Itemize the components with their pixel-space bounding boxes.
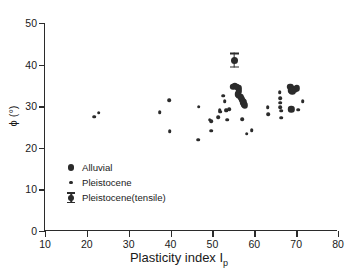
data-point-pleistocene xyxy=(280,116,284,120)
data-point-pleistocene xyxy=(250,129,254,133)
x-axis-tick xyxy=(338,231,339,237)
x-axis-tick xyxy=(254,231,255,237)
x-axis-tick xyxy=(171,231,172,237)
x-axis-title-subscript: p xyxy=(223,258,228,268)
x-axis-tick-label: 80 xyxy=(332,238,344,250)
x-axis-tick-label: 20 xyxy=(81,238,93,250)
data-point-alluvial xyxy=(289,88,295,94)
legend-label-alluvial: Alluvial xyxy=(82,162,112,173)
data-point-pleistocene xyxy=(267,112,271,116)
data-point-pleistocene xyxy=(223,99,227,103)
y-axis-title: ϕ (°) xyxy=(7,106,19,127)
data-point-pleistocene xyxy=(278,96,282,100)
data-point-pleistocene xyxy=(278,90,282,94)
data-point-pleistocene xyxy=(158,110,162,114)
x-axis-tick xyxy=(129,231,130,237)
data-point-pleistocene xyxy=(241,117,245,121)
x-axis-title-text: Plasticity index I xyxy=(130,250,223,265)
x-axis-tick xyxy=(212,231,213,237)
y-axis-tick-label: 10 xyxy=(25,183,37,195)
data-point-pleistocene xyxy=(301,99,305,103)
small-dot-icon xyxy=(63,175,79,190)
legend: Alluvial Pleistocene Pleistocene(tensile… xyxy=(63,160,166,205)
data-point-pleistocene xyxy=(197,105,201,109)
data-point-pleistocene-tensile xyxy=(228,53,241,68)
data-point-alluvial xyxy=(242,102,248,108)
x-axis-tick-label: 50 xyxy=(207,238,219,250)
data-point-pleistocene xyxy=(279,109,283,113)
data-point-pleistocene xyxy=(297,108,301,112)
data-point-pleistocene xyxy=(209,119,213,123)
data-point-pleistocene xyxy=(210,129,214,133)
data-point-pleistocene xyxy=(266,105,270,109)
y-axis-tick-label: 30 xyxy=(25,100,37,112)
data-point-pleistocene xyxy=(92,115,96,119)
y-axis-tick-label: 40 xyxy=(25,59,37,71)
x-axis-tick xyxy=(45,231,46,237)
data-point-pleistocene xyxy=(226,118,230,122)
x-axis-tick xyxy=(296,231,297,237)
legend-item-pleistocene-tensile: Pleistocene(tensile) xyxy=(63,190,166,205)
tensile-marker-icon xyxy=(63,190,79,205)
y-axis-tick-label: 0 xyxy=(31,225,37,237)
y-axis-tick-label: 20 xyxy=(25,142,37,154)
x-axis-tick-label: 40 xyxy=(165,238,177,250)
x-axis-tick xyxy=(87,231,88,237)
legend-label-pleistocene-tensile: Pleistocene(tensile) xyxy=(82,192,166,203)
y-axis-tick-label: 50 xyxy=(25,17,37,29)
data-point-pleistocene xyxy=(221,94,225,98)
legend-label-pleistocene: Pleistocene xyxy=(82,177,132,188)
data-point-pleistocene xyxy=(97,111,101,115)
legend-item-pleistocene: Pleistocene xyxy=(63,175,166,190)
x-axis-tick-label: 30 xyxy=(123,238,135,250)
data-point-pleistocene xyxy=(279,101,283,105)
x-axis-title: Plasticity index Ip xyxy=(0,250,358,268)
data-point-pleistocene xyxy=(168,129,172,133)
x-axis-tick-label: 10 xyxy=(39,238,51,250)
data-point-pleistocene xyxy=(216,116,220,120)
data-point-alluvial xyxy=(288,106,294,112)
data-point-pleistocene xyxy=(218,110,222,114)
x-axis-tick-label: 70 xyxy=(290,238,302,250)
data-point-pleistocene xyxy=(228,107,232,111)
scatter-plot-figure: 010203040501020304050607080 ϕ (°) Plasti… xyxy=(0,0,358,276)
legend-item-alluvial: Alluvial xyxy=(63,160,166,175)
x-axis-tick-label: 60 xyxy=(248,238,260,250)
data-point-pleistocene xyxy=(167,99,171,103)
data-point-pleistocene xyxy=(197,138,201,142)
large-dot-icon xyxy=(63,160,79,175)
data-point-pleistocene xyxy=(245,132,249,136)
